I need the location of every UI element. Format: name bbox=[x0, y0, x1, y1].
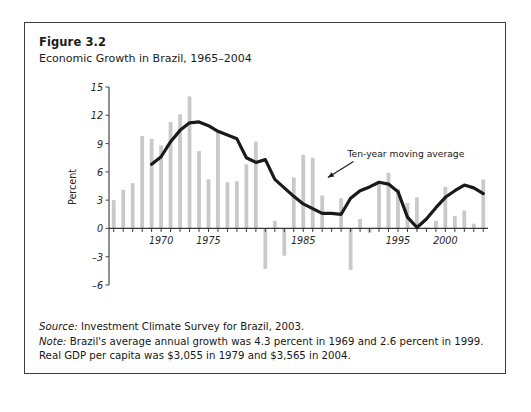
bar bbox=[188, 96, 192, 228]
annotation-label: Ten-year moving average bbox=[347, 148, 464, 159]
bar bbox=[462, 211, 466, 229]
bar bbox=[311, 158, 315, 229]
x-axis-tick-label: 1995 bbox=[378, 235, 418, 246]
bar bbox=[453, 216, 457, 228]
bar bbox=[434, 221, 438, 229]
bar bbox=[481, 179, 485, 228]
bar bbox=[112, 200, 116, 228]
y-axis-tick-label: 0 bbox=[77, 223, 103, 234]
bar bbox=[377, 182, 381, 228]
bar bbox=[387, 173, 391, 229]
figure-number: Figure 3.2 bbox=[39, 35, 479, 50]
y-axis-tick-label: –6 bbox=[77, 280, 103, 291]
bar bbox=[226, 182, 230, 228]
y-axis-title: Percent bbox=[67, 169, 78, 205]
chart-plot-area: 15129630–3–619701975198519952000PercentT… bbox=[87, 83, 492, 333]
y-axis-tick-label: –3 bbox=[77, 251, 103, 262]
annotation-arrowhead bbox=[328, 172, 334, 177]
source-text: Investment Climate Survey for Brazil, 20… bbox=[78, 321, 305, 332]
bar bbox=[131, 183, 135, 228]
y-axis-tick-label: 12 bbox=[77, 110, 103, 121]
bar bbox=[273, 221, 277, 229]
note-text: Brazil's average annual growth was 4.3 p… bbox=[39, 336, 483, 361]
bar bbox=[263, 228, 267, 269]
y-axis-tick-label: 15 bbox=[77, 82, 103, 93]
figure-notes: Source: Investment Climate Survey for Br… bbox=[39, 320, 491, 363]
bar bbox=[358, 219, 362, 228]
bar bbox=[150, 139, 154, 229]
bar bbox=[443, 187, 447, 228]
bar bbox=[472, 224, 476, 229]
x-axis-tick-label: 2000 bbox=[425, 235, 465, 246]
bar bbox=[244, 164, 248, 228]
y-axis-tick-label: 6 bbox=[77, 166, 103, 177]
source-note: Source: Investment Climate Survey for Br… bbox=[39, 320, 491, 334]
figure-title: Economic Growth in Brazil, 1965–2004 bbox=[39, 51, 479, 66]
bar bbox=[121, 190, 125, 229]
bar bbox=[301, 155, 305, 229]
y-axis-tick-label: 9 bbox=[77, 138, 103, 149]
bar bbox=[235, 181, 239, 228]
bar bbox=[216, 131, 220, 228]
x-axis-tick-label: 1970 bbox=[141, 235, 181, 246]
bar bbox=[254, 142, 258, 229]
x-axis-tick-label: 1985 bbox=[283, 235, 323, 246]
figure-box: Figure 3.2 Economic Growth in Brazil, 19… bbox=[24, 22, 506, 374]
source-label: Source: bbox=[39, 321, 78, 332]
note-label: Note: bbox=[39, 336, 67, 347]
bar bbox=[207, 179, 211, 228]
x-axis-tick-label: 1975 bbox=[188, 235, 228, 246]
y-axis-tick-label: 3 bbox=[77, 195, 103, 206]
figure-caption: Figure 3.2 Economic Growth in Brazil, 19… bbox=[39, 35, 479, 66]
bar bbox=[349, 228, 353, 269]
bar bbox=[292, 178, 296, 229]
bar bbox=[197, 151, 201, 228]
bar bbox=[140, 136, 144, 228]
moving-average-line bbox=[152, 122, 484, 228]
explanatory-note: Note: Brazil's average annual growth was… bbox=[39, 335, 491, 363]
chart-svg bbox=[87, 83, 492, 333]
